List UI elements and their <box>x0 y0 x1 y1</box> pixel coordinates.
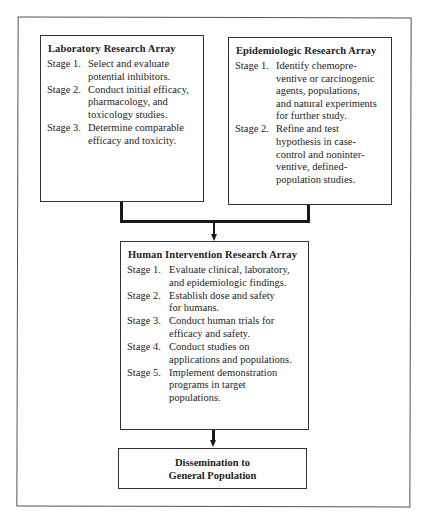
stage-label: Stage 3. <box>47 122 88 147</box>
stage-label: Stage 1. <box>235 60 276 123</box>
stage-text: Conduct studies on applications and popu… <box>169 341 302 366</box>
stage-text: Select and evaluate potential inhibitors… <box>88 58 197 83</box>
lab-stage-2: Stage 2. Conduct initial efficacy, pharm… <box>47 84 197 122</box>
stage-text: Identify chemopre- ventive or carcinogen… <box>276 60 385 123</box>
human-stage-4: Stage 4. Conduct studies on applications… <box>127 341 302 366</box>
epi-stage-2: Stage 2. Refine and test hypothesis in c… <box>235 123 385 186</box>
human-stage-5: Stage 5. Implement demonstration program… <box>127 367 302 405</box>
stage-text: Conduct human trials for efficacy and sa… <box>169 315 302 340</box>
merge-horizontal-connector <box>120 220 310 223</box>
dissemination-box: Dissemination to General Population <box>118 448 307 489</box>
epi-stage-1: Stage 1. Identify chemopre- ventive or c… <box>235 60 385 123</box>
stage-label: Stage 2. <box>47 84 88 122</box>
lab-stage-3: Stage 3. Determine comparable efficacy a… <box>47 122 197 147</box>
human-stage-3: Stage 3. Conduct human trials for effica… <box>127 315 302 340</box>
stage-text: Establish dose and safety for humans. <box>169 290 302 315</box>
epidemiologic-title: Epidemiologic Research Array <box>236 44 385 57</box>
stage-text: Implement demonstration programs in targ… <box>169 367 302 405</box>
arrow-down-icon <box>211 234 217 241</box>
stage-label: Stage 2. <box>127 290 169 315</box>
stage-label: Stage 5. <box>127 367 169 405</box>
human-stage-2: Stage 2. Establish dose and safety for h… <box>127 290 302 315</box>
stage-label: Stage 4. <box>127 341 169 366</box>
stage-label: Stage 1. <box>127 264 169 289</box>
arrow-down-icon <box>210 440 216 447</box>
stage-text: Determine comparable efficacy and toxici… <box>88 122 197 147</box>
stage-text: Refine and test hypothesis in case- cont… <box>276 123 385 186</box>
stage-text: Evaluate clinical, laboratory, and epide… <box>169 264 302 289</box>
laboratory-title: Laboratory Research Array <box>48 42 197 55</box>
human-intervention-research-box: Human Intervention Research Array Stage … <box>120 241 309 430</box>
stage-label: Stage 1. <box>47 58 88 83</box>
dissemination-title: Dissemination to General Population <box>169 456 257 482</box>
stage-label: Stage 3. <box>127 315 169 340</box>
epidemiologic-research-box: Epidemiologic Research Array Stage 1. Id… <box>228 37 392 205</box>
stage-text: Conduct initial efficacy, pharmacology, … <box>88 84 197 122</box>
laboratory-research-box: Laboratory Research Array Stage 1. Selec… <box>40 35 204 202</box>
stage-label: Stage 2. <box>235 123 276 186</box>
lab-stage-1: Stage 1. Select and evaluate potential i… <box>47 58 197 83</box>
human-intervention-title: Human Intervention Research Array <box>128 248 302 261</box>
human-stage-1: Stage 1. Evaluate clinical, laboratory, … <box>127 264 302 289</box>
